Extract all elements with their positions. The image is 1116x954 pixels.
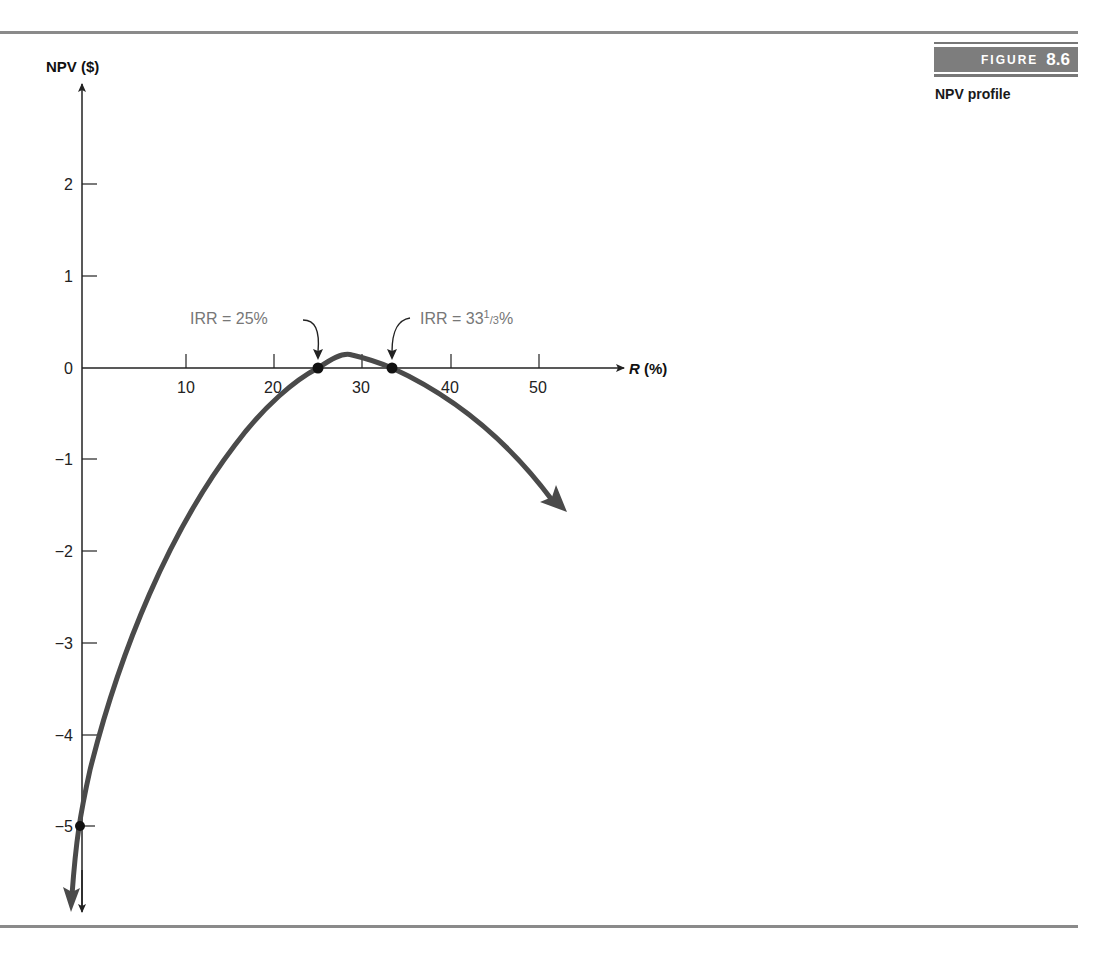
x-tick-labels: 10 20 30 40 50: [177, 379, 547, 396]
y-tick-labels: 2 1 0 −1 −2 −3 −4 −5: [55, 176, 73, 835]
point-npv-at-zero-rate: [75, 821, 85, 831]
y-tick-label: −5: [55, 818, 73, 835]
bottom-rule: [0, 925, 1078, 928]
x-tick-label: 50: [529, 379, 547, 396]
x-axis-title: R (%): [629, 360, 667, 377]
y-tick-label: −4: [55, 727, 73, 744]
y-tick-label: −1: [55, 451, 73, 468]
point-irr-33: [387, 363, 398, 374]
x-tick-label: 40: [441, 379, 459, 396]
point-irr-25: [313, 363, 324, 374]
irr-33-curved-arrow: [392, 318, 410, 352]
y-tick-label: 1: [64, 268, 73, 285]
x-tick-label: 30: [352, 379, 370, 396]
y-tick-label: −3: [55, 635, 73, 652]
npv-chart: NPV ($) 2 1 0 −1 −2 −3 −4 −5 R (%) 10 20…: [0, 0, 1116, 954]
y-axis-title: NPV ($): [46, 58, 99, 75]
svg-text:R (%): R (%): [629, 360, 667, 377]
y-tick-label: 2: [64, 176, 73, 193]
y-ticks: [82, 184, 97, 826]
irr-33-label: IRR = 331/3%: [420, 308, 513, 327]
y-tick-label: −2: [55, 543, 73, 560]
y-tick-label: 0: [64, 360, 73, 377]
x-tick-label: 10: [177, 379, 195, 396]
irr-25-label: IRR = 25%: [190, 310, 268, 327]
irr-25-curved-arrow: [303, 320, 318, 352]
npv-curve: [72, 354, 552, 895]
